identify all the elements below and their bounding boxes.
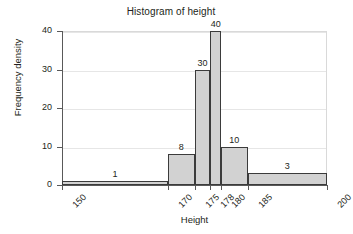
y-tick-label: 10 bbox=[30, 141, 52, 151]
gridline bbox=[62, 32, 326, 33]
x-tick-label: 170 bbox=[176, 192, 194, 210]
histogram-bar bbox=[248, 173, 328, 185]
x-tick-mark bbox=[168, 185, 169, 190]
x-tick-mark bbox=[327, 185, 328, 190]
x-tick-mark bbox=[248, 185, 249, 190]
histogram-bar bbox=[62, 181, 168, 185]
x-tick-mark bbox=[210, 185, 211, 190]
x-tick-label: 175 bbox=[203, 192, 221, 210]
x-tick-mark bbox=[195, 185, 196, 190]
x-tick-mark bbox=[62, 185, 63, 190]
x-axis-title: Height bbox=[62, 214, 327, 225]
bar-value-label: 40 bbox=[196, 19, 235, 29]
bar-value-label: 1 bbox=[48, 169, 182, 179]
y-tick-mark bbox=[57, 147, 62, 148]
y-tick-label: 40 bbox=[30, 25, 52, 35]
histogram-bar bbox=[210, 31, 221, 185]
histogram-bar bbox=[195, 70, 211, 186]
x-tick-label: 200 bbox=[335, 192, 353, 210]
bar-value-label: 3 bbox=[234, 161, 342, 171]
y-tick-label: 0 bbox=[30, 179, 52, 189]
y-tick-mark bbox=[57, 70, 62, 71]
x-tick-label: 185 bbox=[256, 192, 274, 210]
y-tick-mark bbox=[57, 108, 62, 109]
x-tick-mark bbox=[221, 185, 222, 190]
y-tick-label: 30 bbox=[30, 64, 52, 74]
y-axis-title: Frequency density bbox=[12, 3, 23, 153]
bar-value-label: 10 bbox=[207, 135, 262, 145]
y-axis-line bbox=[62, 31, 63, 186]
x-tick-label: 150 bbox=[70, 192, 88, 210]
y-axis: Frequency density bbox=[0, 0, 62, 234]
histogram-bar bbox=[168, 154, 195, 185]
y-tick-mark bbox=[57, 31, 62, 32]
y-tick-label: 20 bbox=[30, 102, 52, 112]
